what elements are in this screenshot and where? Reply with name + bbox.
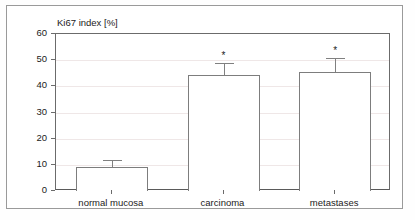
error-bar-cap <box>326 58 345 59</box>
bar <box>299 72 371 191</box>
figure-panel: Ki67 index [%] 0102030405060 ** normal m… <box>0 0 415 220</box>
y-axis-title: Ki67 index [%] <box>57 18 118 28</box>
plot-area: ** <box>55 33 390 190</box>
significance-marker: * <box>217 51 231 61</box>
x-tick-mark <box>111 190 112 194</box>
bar <box>188 75 260 191</box>
y-tick-label: 20 <box>23 133 47 143</box>
x-tick-label: metastases <box>274 198 394 208</box>
y-tick-label: 0 <box>23 185 47 195</box>
x-tick-label: normal mucosa <box>51 198 171 208</box>
error-bar-stem <box>335 58 336 72</box>
bar <box>76 167 148 191</box>
y-tick-label: 50 <box>23 54 47 64</box>
error-bar-stem <box>112 160 113 168</box>
error-bar-cap <box>215 63 234 64</box>
significance-marker: * <box>328 46 342 56</box>
y-tick-label: 10 <box>23 159 47 169</box>
x-tick-mark <box>223 190 224 194</box>
y-tick-label: 40 <box>23 80 47 90</box>
error-bar-cap <box>103 160 122 161</box>
y-tick-label: 60 <box>23 28 47 38</box>
x-tick-mark <box>334 190 335 194</box>
y-tick-label: 30 <box>23 107 47 117</box>
x-tick-label: carcinoma <box>163 198 283 208</box>
error-bar-stem <box>224 63 225 75</box>
y-tick-mark <box>51 190 55 191</box>
